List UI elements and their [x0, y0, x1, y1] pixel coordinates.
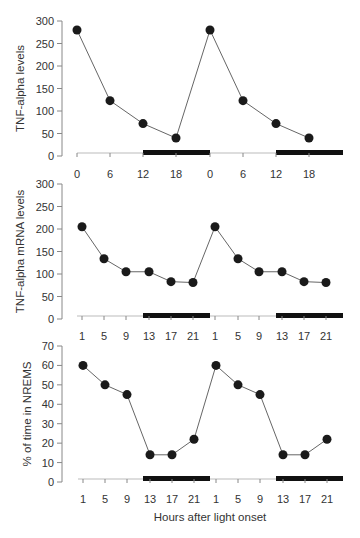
data-point — [146, 450, 155, 459]
panel-tnf-alpha-levels: 050100150200250300TNF-alpha levels061218… — [14, 15, 343, 180]
x-tick-label: 18 — [170, 168, 182, 180]
data-point — [279, 450, 288, 459]
y-tick-label: 100 — [36, 105, 54, 117]
x-tick-label: 18 — [303, 168, 315, 180]
y-tick-label: 70 — [42, 340, 54, 352]
x-tick-label: 17 — [166, 493, 178, 505]
data-point — [190, 435, 199, 444]
y-axis-title: TNF-alpha levels — [14, 45, 26, 132]
x-tick-label: 21 — [188, 493, 200, 505]
x-tick-label: 17 — [298, 330, 310, 342]
x-tick-label: 5 — [235, 493, 241, 505]
data-point — [212, 361, 221, 370]
data-point — [73, 26, 82, 35]
data-point — [123, 390, 132, 399]
x-tick-label: 9 — [123, 330, 129, 342]
x-tick-label: 9 — [256, 330, 262, 342]
data-point — [78, 222, 87, 231]
data-point — [211, 222, 220, 231]
data-point — [189, 278, 198, 287]
panel-tnf-alpha-mrna-levels: 050100150200250300TNF-alpha mRNA levels1… — [14, 178, 343, 342]
dark-period-bar — [143, 313, 210, 318]
x-tick-label: 17 — [299, 493, 311, 505]
y-tick-label: 300 — [36, 178, 54, 190]
x-tick-label: 13 — [143, 330, 155, 342]
data-point — [239, 96, 248, 105]
data-point — [305, 134, 314, 143]
data-point — [256, 390, 265, 399]
y-axis-title: TNF-alpha mRNA levels — [14, 190, 26, 314]
data-point — [122, 267, 131, 276]
data-point — [101, 380, 110, 389]
y-axis-title: % of time in NREMS — [21, 361, 33, 466]
x-tick-label: 1 — [213, 493, 219, 505]
x-tick-label: 12 — [270, 168, 282, 180]
data-line — [82, 227, 326, 283]
data-line — [83, 365, 327, 454]
panel-nrems-percent: 010203040506070% of time in NREMS1591317… — [21, 340, 343, 505]
dark-period-bar — [143, 476, 210, 481]
x-tick-label: 21 — [187, 330, 199, 342]
y-tick-label: 50 — [42, 379, 54, 391]
y-tick-label: 10 — [42, 457, 54, 469]
x-tick-label: 21 — [320, 330, 332, 342]
data-point — [106, 96, 115, 105]
y-tick-label: 150 — [36, 83, 54, 95]
x-tick-label: 6 — [240, 168, 246, 180]
x-tick-label: 5 — [102, 493, 108, 505]
data-point — [167, 277, 176, 286]
y-tick-label: 50 — [42, 128, 54, 140]
figure: 050100150200250300TNF-alpha levels061218… — [0, 0, 360, 538]
data-point — [234, 380, 243, 389]
x-tick-label: 0 — [207, 168, 213, 180]
y-tick-label: 40 — [42, 398, 54, 410]
data-point — [278, 267, 287, 276]
data-point — [300, 277, 309, 286]
data-point — [206, 26, 215, 35]
y-tick-label: 30 — [42, 418, 54, 430]
y-tick-label: 0 — [48, 313, 54, 325]
x-tick-label: 21 — [321, 493, 333, 505]
data-point — [172, 134, 181, 143]
y-tick-label: 100 — [36, 268, 54, 280]
y-tick-label: 0 — [48, 476, 54, 488]
data-point — [139, 119, 148, 128]
dark-period-bar — [276, 313, 343, 318]
x-tick-label: 13 — [276, 330, 288, 342]
data-point — [272, 119, 281, 128]
x-tick-label: 12 — [137, 168, 149, 180]
data-point — [79, 361, 88, 370]
x-tick-label: 13 — [144, 493, 156, 505]
dark-period-bar — [276, 476, 343, 481]
y-tick-label: 50 — [42, 291, 54, 303]
y-tick-label: 150 — [36, 246, 54, 258]
y-tick-label: 20 — [42, 437, 54, 449]
x-tick-label: 9 — [124, 493, 130, 505]
x-tick-label: 5 — [235, 330, 241, 342]
data-point — [234, 254, 243, 263]
x-tick-label: 1 — [79, 330, 85, 342]
x-tick-label: 5 — [101, 330, 107, 342]
y-tick-label: 300 — [36, 15, 54, 27]
x-tick-label: 17 — [165, 330, 177, 342]
data-point — [100, 254, 109, 263]
x-tick-label: 1 — [80, 493, 86, 505]
data-point — [255, 267, 264, 276]
data-point — [322, 278, 331, 287]
x-tick-label: 1 — [212, 330, 218, 342]
y-tick-label: 200 — [36, 60, 54, 72]
y-tick-label: 250 — [36, 38, 54, 50]
data-point — [145, 267, 154, 276]
y-tick-label: 60 — [42, 359, 54, 371]
x-tick-label: 6 — [107, 168, 113, 180]
y-tick-label: 250 — [36, 201, 54, 213]
y-tick-label: 200 — [36, 223, 54, 235]
data-point — [323, 435, 332, 444]
data-point — [168, 450, 177, 459]
x-tick-label: 13 — [277, 493, 289, 505]
x-tick-label: 0 — [74, 168, 80, 180]
x-tick-label: 9 — [257, 493, 263, 505]
y-tick-label: 0 — [48, 150, 54, 162]
data-point — [301, 450, 310, 459]
x-axis-title: Hours after light onset — [154, 511, 267, 523]
